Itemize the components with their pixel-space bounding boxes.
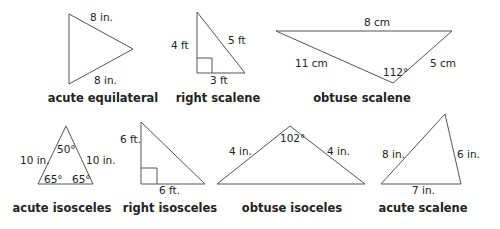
side-length-label: 4 in. (327, 145, 350, 157)
triangle-right-scalene: 4 ft5 ft3 ftright scalene (171, 12, 261, 105)
side-length-label: 8 cm (364, 16, 390, 28)
side-length-label: 10 in. (20, 154, 50, 166)
side-length-label: 6 ft. (120, 133, 141, 145)
angle-label: 112° (383, 66, 408, 78)
triangle-type-caption: obtuse scalene (313, 91, 411, 105)
side-length-label: 3 ft (210, 74, 228, 86)
triangle-shape (141, 122, 205, 184)
triangle-right-isosceles: 6 ft.6 ft.right isosceles (120, 122, 217, 215)
side-length-label: 4 ft (171, 39, 189, 51)
triangle-acute-scalene: 8 in.6 in.7 in.acute scalene (378, 114, 480, 215)
triangle-type-caption: obtuse isoceles (242, 201, 343, 215)
right-angle-marker (197, 58, 212, 73)
side-length-label: 4 in. (229, 145, 252, 157)
angle-label: 65° (44, 173, 63, 185)
side-length-label: 5 ft (228, 34, 246, 46)
triangle-acute-equilateral: 8 in.8 in.acute equilateral (48, 11, 159, 105)
triangle-type-caption: right isosceles (123, 201, 217, 215)
triangle-type-caption: acute scalene (378, 201, 467, 215)
side-length-label: 8 in. (94, 74, 117, 86)
triangle-type-caption: right scalene (176, 91, 261, 105)
side-length-label: 11 cm (295, 57, 328, 69)
triangle-type-caption: acute isosceles (13, 201, 112, 215)
triangle-obtuse-scalene: 8 cm11 cm5 cm112°obtuse scalene (276, 16, 456, 105)
triangle-obtuse-isoceles: 4 in.4 in.102°obtuse isoceles (217, 126, 365, 215)
side-length-label: 8 in. (90, 11, 113, 23)
side-length-label: 6 ft. (159, 184, 180, 196)
right-angle-marker (141, 168, 157, 184)
triangle-classification-figure: 8 in.8 in.acute equilateral4 ft5 ft3 ftr… (0, 0, 500, 229)
triangle-acute-isosceles: 10 in.10 in.50°65°65°acute isosceles (13, 126, 116, 215)
side-length-label: 6 in. (457, 148, 480, 160)
side-length-label: 10 in. (86, 154, 116, 166)
triangle-type-caption: acute equilateral (48, 91, 159, 105)
side-length-label: 7 in. (412, 184, 435, 196)
angle-label: 65° (72, 173, 91, 185)
side-length-label: 5 cm (430, 57, 456, 69)
angle-label: 50° (57, 143, 76, 155)
angle-label: 102° (280, 132, 305, 144)
side-length-label: 8 in. (382, 148, 405, 160)
